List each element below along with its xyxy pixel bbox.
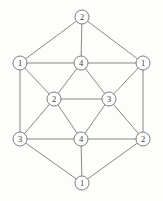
node-circle	[74, 132, 88, 146]
graph-node-top[interactable]: 2	[75, 10, 89, 24]
graph-edge	[25, 104, 50, 133]
node-circle	[136, 56, 150, 70]
graph-node-upper-right[interactable]: 1	[136, 56, 150, 70]
graph-edge	[114, 68, 138, 94]
graph-edge	[81, 146, 82, 176]
graph-edge	[85, 69, 104, 94]
graph-node-upper-left[interactable]: 1	[13, 56, 27, 70]
graph-edge	[81, 24, 82, 56]
node-circle	[75, 176, 89, 190]
graph-node-inner-left[interactable]: 2	[47, 92, 61, 106]
graph-canvas: 2141233421	[0, 0, 163, 201]
graph-edge	[114, 104, 139, 133]
graph-edge	[58, 69, 77, 94]
node-circle	[75, 10, 89, 24]
graph-edge	[26, 143, 77, 179]
graph-node-inner-right[interactable]: 3	[102, 92, 116, 106]
graph-node-lower-right[interactable]: 2	[136, 132, 150, 146]
node-circle	[102, 92, 116, 106]
edges-layer	[20, 21, 143, 179]
node-circle	[13, 56, 27, 70]
graph-edge	[88, 143, 138, 179]
graph-edge	[85, 105, 105, 134]
graph-edge	[26, 21, 77, 59]
graph-edge	[88, 21, 138, 59]
graph-edge	[25, 68, 49, 94]
graph-node-inner-bottom[interactable]: 4	[74, 132, 88, 146]
graph-edge	[58, 105, 77, 133]
graph-figure: 2141233421	[0, 0, 163, 201]
graph-node-bottom[interactable]: 1	[75, 176, 89, 190]
node-circle	[74, 56, 88, 70]
graph-node-lower-left[interactable]: 3	[13, 132, 27, 146]
graph-node-inner-top[interactable]: 4	[74, 56, 88, 70]
node-circle	[13, 132, 27, 146]
node-circle	[47, 92, 61, 106]
node-circle	[136, 132, 150, 146]
